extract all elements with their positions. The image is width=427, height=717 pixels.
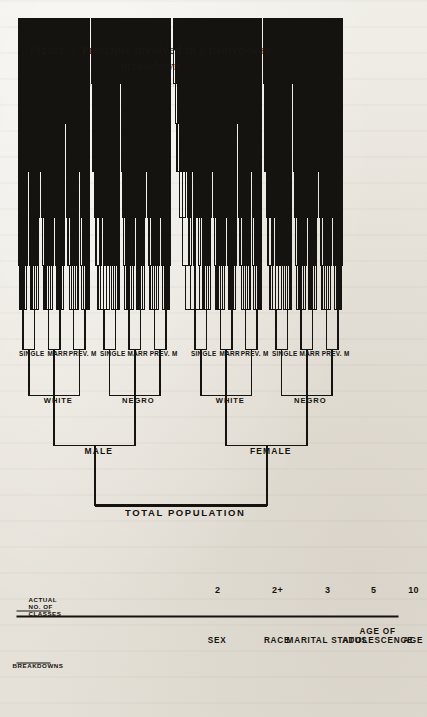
tree-node-male: MALE xyxy=(84,447,112,456)
tree-node-marital-1: MARR xyxy=(47,351,67,357)
tree-node-marital-2: PREV. M xyxy=(321,351,349,357)
breakdown-tree: TOTAL POPULATIONMALEFEMALEWHITENEGROWHIT… xyxy=(0,0,427,717)
tree-node-female: FEMALE xyxy=(249,447,291,456)
figure-canvas: TOTAL POPULATIONMALEFEMALEWHITENEGROWHIT… xyxy=(0,0,427,717)
tree-node-marital-2: PREV. M xyxy=(240,351,268,357)
tree-node-marital-0: SINGLE xyxy=(271,351,297,357)
tree-node-total-population: TOTAL POPULATION xyxy=(125,508,245,518)
tree-node-marital-0: SINGLE xyxy=(19,351,45,357)
tree-node-marital-2: PREV. M xyxy=(68,351,96,357)
tree-node-marital-1: MARR xyxy=(299,351,319,357)
tree-node-marital-0: SINGLE xyxy=(191,351,217,357)
tree-node-marital-1: MARR xyxy=(127,351,147,357)
tree-node-negro-male: NEGRO xyxy=(122,396,154,404)
tree-node-white-male: WHITE xyxy=(43,396,72,404)
caption-text: Figure 3. Principle involved in a twelve… xyxy=(29,41,271,72)
tree-node-marital-0: SINGLE xyxy=(99,351,125,357)
tree-node-marital-2: PREV. M xyxy=(149,351,177,357)
tree-node-marital-1: MARR xyxy=(219,351,239,357)
tree-node-white-female: WHITE xyxy=(215,396,244,404)
tree-node-negro-female: NEGRO xyxy=(294,396,326,404)
caption-subtext: of a population into homogeneous subgrou… xyxy=(0,78,300,88)
tree-connector-lines xyxy=(0,0,427,717)
figure-caption: Figure 3. Principle involved in a twelve… xyxy=(0,35,300,88)
